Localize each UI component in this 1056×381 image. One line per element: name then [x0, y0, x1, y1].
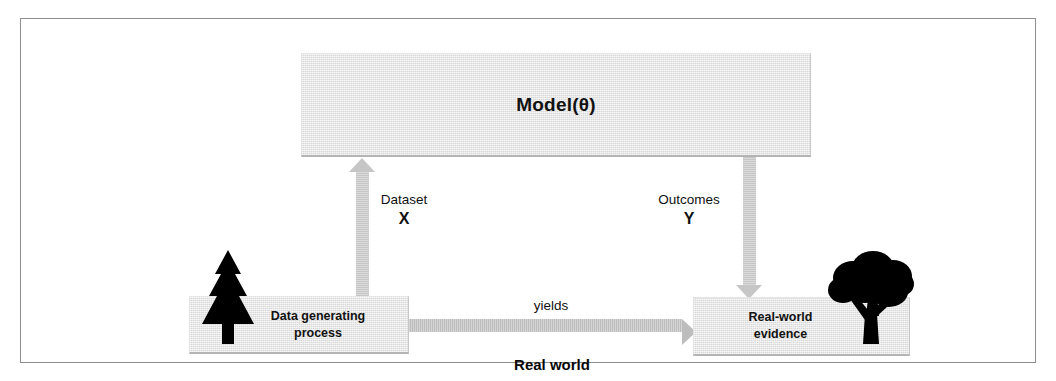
conifer-tree-icon	[197, 248, 259, 344]
dataset-arrow-shaft	[356, 171, 369, 299]
dataset-symbol: X	[359, 209, 449, 229]
yields-arrow-shaft	[407, 319, 682, 332]
dataset-label-text: Dataset	[359, 192, 449, 209]
rwe-label-line2: evidence	[754, 327, 808, 341]
dgp-label-line2: process	[294, 326, 342, 340]
yields-edge-label: yields	[491, 298, 611, 313]
outcomes-label-text: Outcomes	[639, 192, 739, 209]
outcomes-edge-label: Outcomes Y	[639, 192, 739, 229]
outcomes-arrow-shaft	[743, 157, 756, 285]
dataset-edge-label: Dataset X	[359, 192, 449, 229]
diagram-frame: Model(θ) Dataset X Outcomes Y yields Dat…	[20, 18, 1036, 363]
diagram-figure: Model(θ) Dataset X Outcomes Y yields Dat…	[0, 0, 1056, 381]
dataset-arrow-head-up-icon	[349, 158, 375, 172]
dgp-label-line1: Data generating	[271, 309, 365, 323]
real-world-caption: Real world	[457, 356, 647, 373]
model-box-label: Model(θ)	[516, 94, 595, 116]
rwe-label-line1: Real-world	[749, 310, 813, 324]
model-box[interactable]: Model(θ)	[301, 53, 811, 157]
outcomes-symbol: Y	[639, 209, 739, 229]
broadleaf-tree-icon	[827, 248, 915, 346]
